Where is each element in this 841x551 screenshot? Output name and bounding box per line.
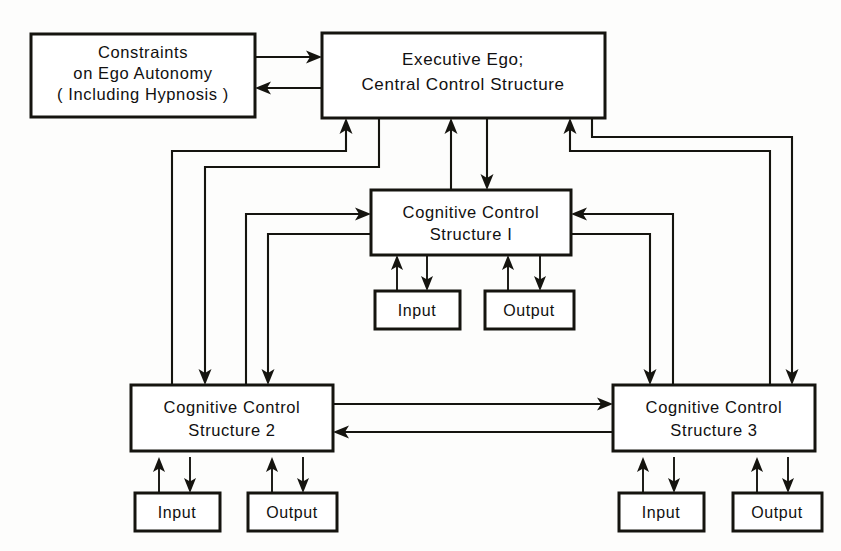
edge-exec-to-constraints	[255, 82, 322, 95]
ccs1-line-1: Cognitive Control	[403, 203, 540, 221]
constraints-line-3: ( Including Hypnosis )	[57, 85, 229, 103]
input-label: Input	[398, 302, 437, 319]
output-box-ccs1[interactable]: Output	[485, 291, 574, 329]
output-label: Output	[503, 302, 555, 319]
edge-exec-ccs1-up	[445, 118, 458, 190]
edge-ccs3-output3	[751, 457, 794, 493]
edge-ccs3-to-exec	[564, 118, 771, 385]
edge-ccs1-output1	[502, 255, 546, 291]
output-box-ccs3[interactable]: Output	[733, 493, 822, 531]
diagram-canvas: Constraints on Ego Autonomy ( Including …	[0, 0, 841, 551]
cognitive-control-structure-1-box[interactable]: Cognitive Control Structure I	[371, 190, 571, 255]
ccs2-line-2: Structure 2	[188, 421, 275, 439]
ccs2-line-1: Cognitive Control	[164, 398, 301, 416]
edge-exec-to-ccs3	[592, 118, 799, 385]
edge-ccs3-input3	[637, 457, 680, 493]
input-label: Input	[642, 504, 681, 521]
ccs3-line-2: Structure 3	[670, 421, 757, 439]
edge-ccs1-to-ccs2	[262, 234, 372, 385]
constraints-line-2: on Ego Autonomy	[73, 64, 212, 82]
edge-ccs1-input1	[391, 255, 433, 291]
edge-exec-ccs1-down	[481, 118, 494, 190]
block-diagram: Constraints on Ego Autonomy ( Including …	[0, 0, 841, 551]
output-label: Output	[751, 504, 803, 521]
output-box-ccs2[interactable]: Output	[248, 493, 337, 531]
constraints-box[interactable]: Constraints on Ego Autonomy ( Including …	[31, 34, 255, 117]
edge-ccs1-to-ccs3	[571, 234, 657, 385]
executive-ego-line-2: Central Control Structure	[361, 75, 564, 94]
output-label: Output	[266, 504, 318, 521]
input-label: Input	[158, 504, 197, 521]
input-box-ccs1[interactable]: Input	[375, 291, 460, 329]
cognitive-control-structure-3-box[interactable]: Cognitive Control Structure 3	[613, 385, 815, 451]
edge-ccs2-to-exec	[172, 118, 353, 385]
input-box-ccs2[interactable]: Input	[135, 493, 220, 531]
executive-ego-line-1: Executive Ego;	[402, 50, 524, 69]
input-box-ccs3[interactable]: Input	[619, 493, 704, 531]
edge-exec-to-ccs2	[199, 118, 380, 385]
ccs1-line-2: Structure I	[430, 225, 513, 243]
ccs3-line-1: Cognitive Control	[646, 398, 783, 416]
edge-ccs2-to-ccs3	[333, 398, 613, 411]
edge-ccs3-to-ccs2	[333, 426, 613, 439]
edge-ccs2-input2	[153, 457, 196, 493]
edge-constraints-to-exec	[255, 51, 322, 64]
executive-ego-box[interactable]: Executive Ego; Central Control Structure	[322, 33, 605, 118]
cognitive-control-structure-2-box[interactable]: Cognitive Control Structure 2	[131, 385, 333, 451]
edge-ccs2-output2	[266, 457, 309, 493]
constraints-line-1: Constraints	[98, 43, 188, 61]
